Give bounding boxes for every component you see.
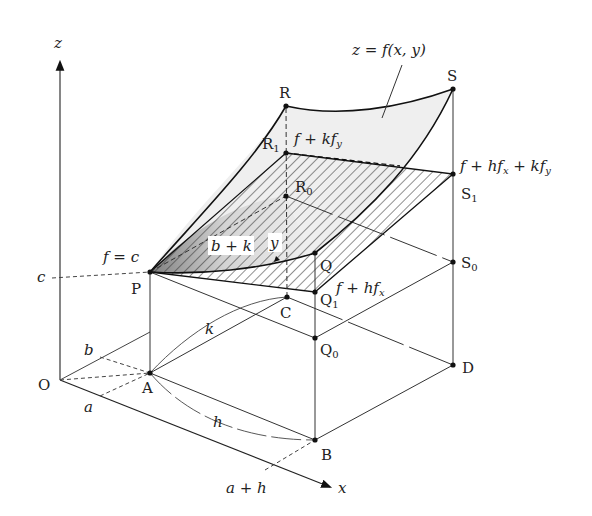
label-Q0: Q0 <box>320 341 339 360</box>
point-B <box>312 437 317 442</box>
tick-b: b <box>84 341 94 359</box>
point-R1 <box>283 150 288 155</box>
point-R <box>283 103 288 108</box>
guide-b-A <box>100 357 150 373</box>
point-R0 <box>283 193 288 198</box>
tick-a-plus-h: a + h <box>226 479 267 497</box>
z-axis-label: z <box>53 34 62 52</box>
point-S1 <box>450 171 455 176</box>
label-S1: S1 <box>461 185 478 204</box>
label-R: R <box>279 84 291 102</box>
label-A: A <box>141 379 153 397</box>
surface-diagram: z x O c b a a + h A B D C P Q Q1 Q0 R R1… <box>0 0 592 516</box>
label-C: C <box>280 304 291 322</box>
annotation-f-plus-kfy: f + kfy <box>293 130 342 149</box>
point-S <box>450 86 455 91</box>
y-axis-line <box>60 332 150 380</box>
surface-label: z = f(x, y) <box>351 41 426 59</box>
guide-O-A <box>60 373 150 380</box>
annotation-h: h <box>213 413 223 431</box>
point-Q <box>312 250 317 255</box>
point-S0 <box>450 259 455 264</box>
annotation-y: y <box>269 234 279 252</box>
label-S: S <box>447 67 457 85</box>
point-Q1 <box>312 289 317 294</box>
annotation-b-plus-k: b + k <box>211 237 252 255</box>
label-S0: S0 <box>461 254 478 273</box>
annotation-f-eq-c: f = c <box>102 248 140 266</box>
label-P: P <box>131 280 141 298</box>
tick-a: a <box>84 398 93 416</box>
point-D <box>450 362 455 367</box>
point-Q0 <box>312 335 317 340</box>
annotation-f-plus-hfx: f + hfx <box>335 279 385 298</box>
edge-B-D <box>315 365 453 440</box>
guide-ah-B <box>265 440 315 470</box>
annotation-k: k <box>205 320 214 338</box>
label-Q: Q <box>320 257 332 275</box>
origin-label: O <box>38 376 50 394</box>
label-B: B <box>321 446 332 464</box>
edge-A-C <box>150 297 287 373</box>
edge-A-B <box>150 373 315 440</box>
guide-c-P <box>52 272 150 278</box>
point-A <box>147 370 152 375</box>
tick-c: c <box>37 268 46 286</box>
annotation-f-plus-hfx-kfy: f + hfx + kfy <box>459 157 551 176</box>
point-P <box>147 269 152 274</box>
label-D: D <box>462 359 474 377</box>
x-axis-label: x <box>338 479 347 497</box>
point-C <box>284 294 289 299</box>
